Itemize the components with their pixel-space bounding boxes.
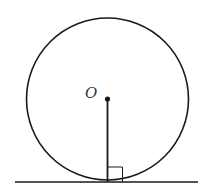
center-label: O	[85, 84, 97, 102]
tangent-circle-diagram: O	[0, 0, 206, 194]
center-point	[105, 96, 110, 101]
